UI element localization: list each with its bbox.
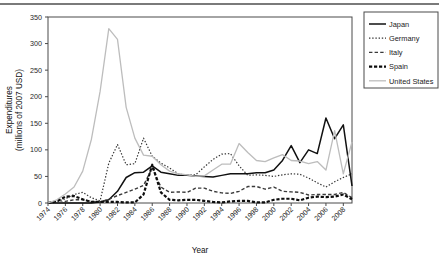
x-tick-label: 1998: [243, 205, 261, 223]
series-lines: [48, 29, 352, 203]
y-tick-label: 200: [30, 92, 42, 101]
x-tick-label: 2006: [312, 205, 330, 223]
y-tick-label: 100: [30, 145, 42, 154]
legend-label-united-states[interactable]: United States: [389, 77, 434, 86]
x-tick-label: 2004: [295, 205, 313, 223]
x-tick-label: 1996: [225, 205, 243, 223]
x-tick-label: 1980: [86, 205, 104, 223]
x-tick-label: 1986: [138, 205, 156, 223]
y-axis-title-line1: Expenditures: [5, 86, 14, 134]
y-tick-label: 300: [30, 39, 42, 48]
x-tick-label: 1978: [69, 205, 87, 223]
line-chart: 050100150200250300350 197419761978198019…: [0, 0, 439, 259]
legend-label-germany[interactable]: Germany: [389, 34, 420, 43]
x-tick-label: 1974: [34, 205, 52, 223]
series-line-germany: [48, 138, 352, 203]
x-tick-label: 1982: [104, 205, 122, 223]
y-tick-label: 150: [30, 119, 42, 128]
chart-figure: 050100150200250300350 197419761978198019…: [0, 0, 439, 259]
x-tick-label: 1976: [52, 205, 70, 223]
legend-label-spain[interactable]: Spain: [389, 62, 408, 71]
x-tick-label: 1988: [156, 205, 174, 223]
legend-label-japan[interactable]: Japan: [389, 20, 409, 29]
chart-legend[interactable]: JapanGermanyItalySpainUnited States: [364, 12, 438, 88]
y-tick-label: 50: [34, 172, 42, 181]
y-tick-label: 350: [30, 13, 42, 22]
series-line-spain: [48, 165, 352, 203]
y-tick-label: 250: [30, 66, 42, 75]
legend-label-italy[interactable]: Italy: [389, 48, 403, 57]
x-tick-label: 1992: [191, 205, 209, 223]
y-tick-label: 0: [38, 199, 42, 208]
y-axis-title-line2: (millions of 2007 USD): [15, 69, 24, 151]
x-tick-label: 2000: [260, 205, 278, 223]
y-axis-ticks: 050100150200250300350: [30, 13, 48, 208]
x-tick-label: 2008: [330, 205, 348, 223]
x-axis-title: Year: [192, 246, 209, 255]
x-tick-label: 1984: [121, 205, 139, 223]
plot-frame: [48, 17, 352, 203]
x-tick-label: 2002: [277, 205, 295, 223]
x-tick-label: 1994: [208, 205, 226, 223]
x-tick-label: 1990: [173, 205, 191, 223]
x-axis-ticks: 1974197619781980198219841986198819901992…: [34, 203, 347, 223]
